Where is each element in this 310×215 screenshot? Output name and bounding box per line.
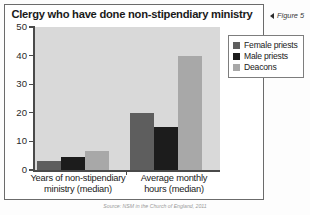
category-label-1: Average monthly hours (median)	[130, 173, 218, 194]
legend-label-female-priests: Female priests	[244, 40, 298, 51]
y-axis-line	[33, 26, 35, 171]
category-label-0-line-0: Years of non-stipendiary	[28, 173, 128, 184]
category-label-0-line-1: ministry (median)	[28, 184, 128, 195]
y-axis-tick-40	[29, 55, 34, 56]
legend-swatch-male-priests	[233, 53, 240, 60]
legend-label-deacons: Deacons	[244, 62, 277, 73]
legend-item-female-priests: Female priests	[233, 40, 298, 51]
y-axis-label-50: 50	[10, 22, 27, 32]
y-axis-label-30: 30	[10, 79, 27, 89]
y-axis-tick-20	[29, 112, 34, 113]
y-axis-tick-0	[29, 169, 34, 170]
y-axis-label-40: 40	[10, 51, 27, 61]
y-axis-label-20: 20	[10, 108, 27, 118]
legend-label-male-priests: Male priests	[244, 51, 288, 62]
legend-item-male-priests: Male priests	[233, 51, 298, 62]
category-label-1-line-1: hours (median)	[130, 184, 218, 195]
bar-deacons-group-0	[85, 151, 109, 170]
source-note: Source: NSM in the Church of England, 20…	[4, 203, 306, 209]
y-axis-label-0: 0	[10, 165, 27, 175]
chart-title: Clergy who have done non-stipendiary min…	[10, 8, 254, 21]
bar-female-priests-group-1	[130, 113, 154, 170]
bar-male-priests-group-1	[154, 127, 178, 170]
category-label-1-line-0: Average monthly	[130, 173, 218, 184]
figure-root: Clergy who have done non-stipendiary min…	[0, 0, 310, 215]
bar-female-priests-group-0	[37, 161, 61, 170]
legend-swatch-female-priests	[233, 42, 240, 49]
y-axis-label-10: 10	[10, 136, 27, 146]
y-axis-tick-50	[29, 26, 34, 27]
y-axis-tick-10	[29, 141, 34, 142]
figure-arrow-icon	[270, 13, 274, 19]
legend-swatch-deacons	[233, 64, 240, 71]
y-axis-tick-30	[29, 84, 34, 85]
bar-deacons-group-1	[178, 56, 202, 170]
category-label-0: Years of non-stipendiary ministry (media…	[28, 173, 128, 194]
chart-legend: Female priests Male priests Deacons	[228, 35, 304, 78]
figure-caption: Figure 5	[270, 11, 304, 20]
figure-caption-label: Figure 5	[277, 11, 304, 20]
bar-male-priests-group-0	[61, 157, 85, 170]
legend-item-deacons: Deacons	[233, 62, 298, 73]
